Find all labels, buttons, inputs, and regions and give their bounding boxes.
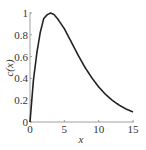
y-tick-label: 0.6 [14, 51, 28, 63]
series [30, 13, 133, 122]
y-tick-label: 1 [23, 7, 29, 19]
x-axis-label: x [78, 133, 84, 145]
y-tick-label: 0.8 [14, 29, 28, 41]
x-tick-label: 0 [27, 123, 33, 135]
x-tick-label: 15 [128, 123, 140, 135]
ticks: 05101500.20.40.60.81 [14, 7, 139, 135]
y-tick-label: 0.4 [14, 72, 28, 84]
x-tick-label: 5 [62, 123, 68, 135]
y-axis-label: c(x) [3, 59, 16, 76]
chart: 05101500.20.40.60.81 x c(x) [0, 0, 146, 150]
y-tick-label: 0.2 [14, 94, 28, 106]
y-tick-label: 0 [23, 116, 29, 128]
x-tick-label: 10 [93, 123, 105, 135]
series-line [30, 13, 133, 122]
